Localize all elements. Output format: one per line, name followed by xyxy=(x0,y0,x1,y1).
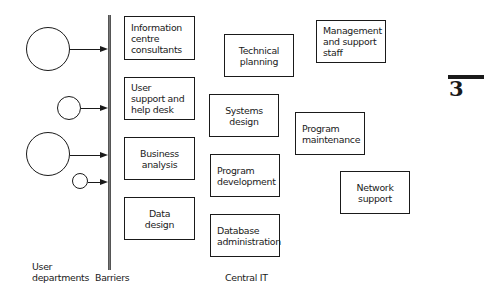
arrow-head-icon xyxy=(100,46,108,52)
box-text-line: Technical xyxy=(239,45,279,56)
box-text-line: User xyxy=(131,82,188,93)
box-text-line: Database xyxy=(217,225,273,236)
box-text-line: Program xyxy=(217,165,273,176)
box-text-line: Data xyxy=(149,208,170,219)
arrow-head-icon xyxy=(100,179,108,185)
box-text-line: administration xyxy=(217,236,273,247)
arrow-connector xyxy=(81,108,102,109)
label-line: User xyxy=(32,261,89,272)
box-text-line: staff xyxy=(323,47,379,58)
box-text-line: planning xyxy=(240,56,278,67)
box-text-line: Business xyxy=(140,148,179,159)
box-text-line: design xyxy=(145,219,174,230)
box-text-line: Management xyxy=(323,25,379,36)
box-database-administration: Database administration xyxy=(210,214,280,257)
box-text-line: development xyxy=(217,176,273,187)
box-text-line: centre xyxy=(131,33,188,44)
user-department-circle xyxy=(26,27,70,71)
user-department-circle xyxy=(72,173,88,189)
arrow-head-icon xyxy=(100,152,108,158)
box-text-line: and support xyxy=(323,36,379,47)
box-program-maintenance: Program maintenance xyxy=(295,112,365,155)
box-text-line: Program xyxy=(302,123,358,134)
arrow-connector xyxy=(70,49,102,50)
box-text-line: help desk xyxy=(131,104,188,115)
user-departments-label: User departments xyxy=(32,261,89,283)
box-systems-design: Systems design xyxy=(209,94,279,137)
box-text-line: support xyxy=(358,193,392,204)
box-business-analysis: Business analysis xyxy=(124,137,195,180)
arrow-connector xyxy=(70,155,102,156)
box-text-line: Information xyxy=(131,22,188,33)
chapter-number: 3 xyxy=(449,77,464,101)
box-text-line: design xyxy=(229,116,258,127)
box-text-line: Systems xyxy=(225,105,263,116)
arrow-head-icon xyxy=(100,105,108,111)
box-user-support-help-desk: User support and help desk xyxy=(124,77,195,120)
box-text-line: analysis xyxy=(142,159,178,170)
box-data-design: Data design xyxy=(124,197,195,240)
box-program-development: Program development xyxy=(210,154,280,197)
box-technical-planning: Technical planning xyxy=(224,34,294,77)
box-network-support: Network support xyxy=(340,171,410,214)
box-management-support-staff: Management and support staff xyxy=(316,20,386,63)
box-text-line: consultants xyxy=(131,44,188,55)
user-department-circle xyxy=(57,96,81,120)
user-department-circle xyxy=(26,132,70,176)
central-it-label: Central IT xyxy=(225,272,268,283)
box-text-line: support and xyxy=(131,93,188,104)
box-text-line: Network xyxy=(356,182,393,193)
barrier-line xyxy=(108,15,111,270)
barriers-label: Barriers xyxy=(95,272,129,283)
label-line: departments xyxy=(32,272,89,283)
box-information-centre-consultants: Information centre consultants xyxy=(124,16,195,60)
box-text-line: maintenance xyxy=(302,134,358,145)
